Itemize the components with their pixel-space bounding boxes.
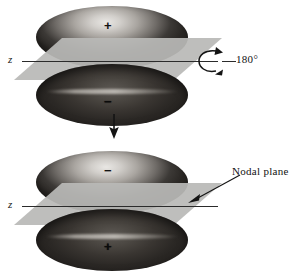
rotation-leader-line bbox=[222, 61, 236, 62]
positive-sign-top-lobe: + bbox=[104, 19, 112, 32]
diagram-after-rotation: z − + Nodal plane bbox=[0, 145, 300, 273]
negative-sign-top-lobe-after: − bbox=[104, 164, 112, 177]
rotation-angle-label: 180° bbox=[236, 53, 258, 65]
z-axis-line-bottom bbox=[22, 206, 218, 207]
lower-lobe-positive bbox=[36, 209, 188, 271]
down-arrow-icon bbox=[106, 114, 122, 140]
nodal-plane-label: Nodal plane bbox=[232, 165, 289, 177]
z-axis-line-top bbox=[22, 61, 218, 62]
negative-sign-bottom-lobe: − bbox=[104, 95, 112, 108]
z-axis-label-top: z bbox=[8, 53, 12, 65]
positive-sign-bottom-lobe-after: + bbox=[104, 240, 112, 253]
diagram-before-rotation: z + − 180° bbox=[0, 0, 300, 140]
z-axis-label-bottom: z bbox=[8, 198, 12, 210]
orbital-rotation-figure: z + − 180° z − + Nodal plan bbox=[0, 0, 300, 273]
pointer-arrow-icon bbox=[186, 173, 242, 203]
